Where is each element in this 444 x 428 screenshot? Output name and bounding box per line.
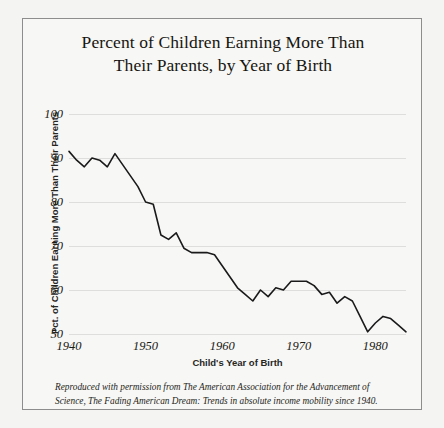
- series-polyline: [69, 151, 406, 331]
- chart-title-line-1: Percent of Children Earning More Than: [23, 31, 423, 54]
- x-tick-label: 1980: [363, 339, 388, 354]
- y-axis-title: Pct. of Children Earning More Than Their…: [49, 114, 63, 334]
- x-axis-title: Child's Year of Birth: [69, 357, 406, 368]
- y-tick-label: 90: [51, 151, 64, 166]
- gridline-y-50: [69, 334, 406, 335]
- caption-line-1: Reproduced with permission from The Amer…: [55, 382, 369, 392]
- y-tick-label: 100: [44, 107, 63, 122]
- x-tick-label: 1960: [210, 339, 235, 354]
- y-tick-label: 70: [51, 239, 64, 254]
- data-series-line: [69, 114, 406, 334]
- figure-frame: Percent of Children Earning More Than Th…: [22, 18, 422, 410]
- plot-area: 5060708090100 19401950196019701980: [69, 114, 406, 334]
- y-tick-label: 80: [51, 195, 64, 210]
- chart-title: Percent of Children Earning More Than Th…: [23, 31, 423, 77]
- chart-title-line-2: Their Parents, by Year of Birth: [23, 54, 423, 77]
- caption-line-2: Science, The Fading American Dream: Tren…: [55, 396, 378, 406]
- x-tick-label: 1940: [57, 339, 82, 354]
- x-tick-label: 1950: [133, 339, 158, 354]
- x-tick-label: 1970: [286, 339, 311, 354]
- figure-caption: Reproduced with permission from The Amer…: [55, 381, 395, 408]
- y-tick-label: 60: [51, 283, 64, 298]
